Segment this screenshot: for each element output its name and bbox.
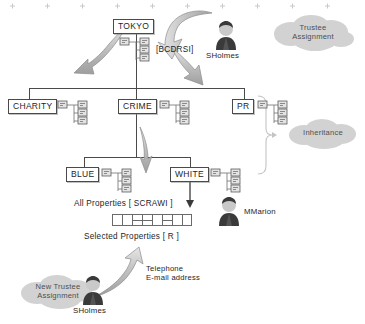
- label-all-properties: All Properties [ SCRAWI ]: [74, 199, 173, 209]
- grid-cell-half: [133, 221, 142, 226]
- grid-cell[interactable]: [182, 214, 192, 226]
- label-selected-properties: Selected Properties [ R ]: [84, 232, 179, 242]
- tree-cluster-icon-tokyo[interactable]: [118, 36, 160, 66]
- tree-cluster-icon-white[interactable]: [209, 167, 251, 197]
- grid-cell-half: [143, 221, 152, 226]
- node-blue[interactable]: BLUE: [66, 167, 99, 182]
- cloud-inheritance-label: Inheritance: [303, 128, 343, 137]
- person-icon-sholmes-top[interactable]: [213, 20, 239, 50]
- grid-cell[interactable]: [172, 214, 182, 226]
- node-charity[interactable]: CHARITY: [8, 99, 57, 114]
- tree-cluster-icon-pr[interactable]: [256, 99, 298, 129]
- grid-cell[interactable]: [162, 214, 172, 226]
- person-label-sholmes-top: SHolmes: [206, 51, 239, 60]
- grid-cell[interactable]: [122, 214, 132, 226]
- person-icon-sholmes-bottom[interactable]: [80, 275, 106, 305]
- node-crime[interactable]: CRIME: [118, 99, 157, 114]
- tree-cluster-icon-crime[interactable]: [158, 99, 200, 129]
- cloud-trustee-line2: Assignment: [292, 32, 334, 41]
- arrow-white-to-properties: [186, 181, 194, 208]
- cloud-trustee-line1: Trustee: [292, 23, 334, 32]
- label-contact-email: E-mail address: [146, 273, 200, 283]
- tree-cluster-icon-charity[interactable]: [56, 99, 98, 129]
- label-privileges: [BCDRSI]: [156, 45, 194, 55]
- node-pr[interactable]: PR: [232, 99, 254, 114]
- grid-cell[interactable]: [132, 214, 142, 226]
- cloud-new-trustee-line1: New Trustee: [36, 282, 81, 291]
- cloud-trustee-assignment: Trustee Assignment: [269, 12, 357, 52]
- diagram-canvas: TOKYO CHARITY CRIME PR BLUE WHITE: [0, 0, 365, 324]
- grid-cell-half: [163, 221, 172, 226]
- person-label-sholmes-bottom: SHolmes: [73, 306, 106, 315]
- cloud-new-trustee-line2: Assignment: [36, 291, 81, 300]
- person-label-mmarion: MMarion: [244, 207, 276, 216]
- person-icon-mmarion[interactable]: [216, 196, 242, 226]
- grid-cell[interactable]: [142, 214, 152, 226]
- tree-cluster-icon-blue[interactable]: [100, 167, 142, 197]
- node-tokyo[interactable]: TOKYO: [113, 19, 154, 34]
- grid-cell[interactable]: [112, 214, 122, 226]
- grid-cell[interactable]: [152, 214, 162, 226]
- node-white[interactable]: WHITE: [170, 167, 209, 182]
- properties-grid[interactable]: [112, 214, 192, 226]
